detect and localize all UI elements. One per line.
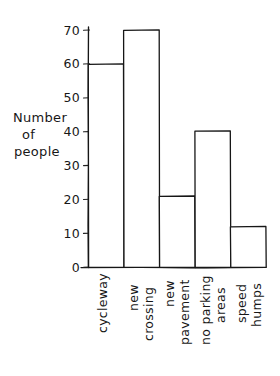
x-axis-category-labels: cycleway new crossing new pavement no pa… [95, 273, 264, 345]
y-tick-label-40: 40 [63, 124, 80, 139]
category-label-speed-humps-line-1: speed [234, 284, 249, 323]
category-label-cycleway: cycleway [95, 273, 110, 333]
category-label-speed-humps: speed humps [234, 283, 264, 327]
category-label-new-crossing: new crossing [126, 284, 156, 341]
bar-cycleway [88, 64, 124, 268]
y-axis-title-line-3: people [14, 144, 60, 159]
category-label-new-pavement-line-1: new [162, 280, 177, 307]
hand-drawn-bar-chart: 70 60 50 40 30 20 10 0 Number of people [0, 0, 280, 376]
category-label-cycleway-line-1: cycleway [95, 273, 110, 333]
category-label-new-crossing-line-1: new [126, 284, 141, 311]
y-tick-label-50: 50 [63, 90, 80, 105]
category-label-new-crossing-line-2: crossing [141, 287, 156, 341]
y-tick-label-20: 20 [63, 192, 80, 207]
category-label-speed-humps-line-2: humps [249, 283, 264, 327]
y-tick-label-10: 10 [63, 226, 80, 241]
category-label-new-pavement: new pavement [162, 279, 192, 345]
bar-new-crossing [124, 30, 160, 268]
category-label-no-parking-areas-line-1: no parking [198, 275, 213, 345]
y-axis-tick-labels: 70 60 50 40 30 20 10 0 [63, 23, 80, 275]
bars-group [88, 30, 266, 268]
y-axis-title-line-1: Number [13, 110, 67, 125]
category-label-no-parking-areas: no parking areas [198, 275, 228, 345]
y-axis-title-line-2: of [22, 127, 35, 142]
bar-no-parking-areas [195, 131, 231, 268]
y-tick-label-60: 60 [63, 56, 80, 71]
category-label-no-parking-areas-line-2: areas [213, 287, 228, 323]
chart-canvas: 70 60 50 40 30 20 10 0 Number of people [0, 0, 280, 376]
bar-new-pavement [159, 196, 195, 268]
bar-speed-humps [230, 226, 266, 267]
y-axis-title: Number of people [13, 110, 67, 159]
y-tick-label-30: 30 [63, 158, 80, 173]
y-tick-label-0: 0 [72, 260, 80, 275]
y-tick-label-70: 70 [63, 23, 80, 38]
category-label-new-pavement-line-2: pavement [177, 279, 192, 345]
